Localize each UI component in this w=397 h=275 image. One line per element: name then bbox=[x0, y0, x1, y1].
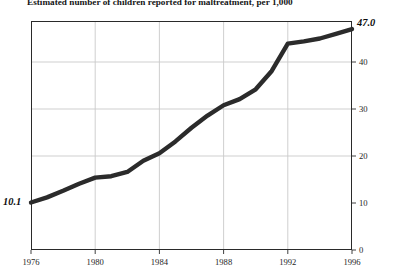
y-tick-label: 20 bbox=[359, 151, 368, 161]
y-tick-label: 40 bbox=[359, 57, 368, 67]
series-polyline bbox=[31, 29, 352, 202]
chart-figure: Estimated number of children reported fo… bbox=[0, 0, 397, 275]
start-value-annotation: 10.1 bbox=[3, 196, 21, 207]
y-tick-label: 0 bbox=[359, 245, 363, 255]
y-tick-label: 10 bbox=[359, 198, 368, 208]
x-tick-label: 1984 bbox=[139, 257, 179, 267]
data-series-line bbox=[0, 0, 397, 275]
x-tick-label: 1992 bbox=[268, 257, 308, 267]
end-value-annotation: 47.0 bbox=[357, 17, 375, 28]
x-tick-label: 1996 bbox=[332, 257, 372, 267]
x-tick-label: 1976 bbox=[11, 257, 51, 267]
x-tick-label: 1988 bbox=[204, 257, 244, 267]
x-tick-label: 1980 bbox=[75, 257, 115, 267]
y-tick-label: 30 bbox=[359, 104, 368, 114]
